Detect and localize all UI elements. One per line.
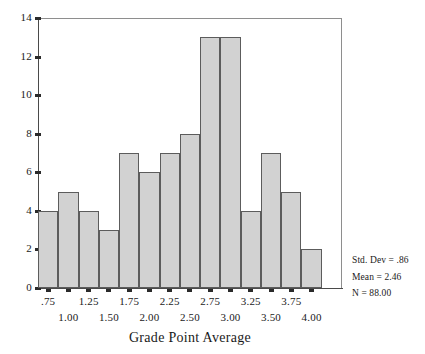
x-axis-tick — [309, 289, 314, 292]
x-axis-tick-label: 2.25 — [150, 296, 190, 307]
x-axis-tick-label: 1.25 — [69, 296, 109, 307]
histogram-bar — [301, 249, 321, 288]
histogram-bar — [241, 211, 261, 288]
x-axis-tick — [289, 289, 294, 292]
histogram-bar — [180, 134, 200, 288]
x-axis-tick-label: 4.00 — [292, 312, 332, 323]
x-axis-tick — [208, 289, 213, 292]
histogram-chart: 02468101214 .751.001.251.501.752.002.252… — [0, 0, 425, 354]
sample-size-text: N = 88.00 — [352, 285, 425, 302]
histogram-bar — [119, 153, 139, 288]
x-axis-tick-label: 3.00 — [211, 312, 251, 323]
x-axis-tick — [167, 289, 172, 292]
x-axis-tick — [269, 289, 274, 292]
histogram-bars — [38, 18, 343, 288]
x-axis-tick-label: 2.00 — [129, 312, 169, 323]
x-axis-tick — [147, 289, 152, 292]
x-axis-tick — [127, 289, 132, 292]
y-axis-tick-label: 0 — [2, 282, 32, 293]
std-dev-text: Std. Dev = .86 — [352, 252, 425, 269]
histogram-bar — [58, 192, 78, 288]
y-axis-tick-label: 8 — [2, 128, 32, 139]
x-axis-tick — [228, 289, 233, 292]
y-axis-tick-label: 6 — [2, 166, 32, 177]
x-axis-tick-label: 3.75 — [271, 296, 311, 307]
x-axis-tick-label: 2.75 — [190, 296, 230, 307]
x-axis-tick-label: 1.50 — [89, 312, 129, 323]
y-axis-tick-label: 10 — [2, 89, 32, 100]
x-axis-tick-label: 3.25 — [231, 296, 271, 307]
mean-text: Mean = 2.46 — [352, 269, 425, 286]
histogram-bar — [281, 192, 301, 288]
x-axis-tick — [187, 289, 192, 292]
histogram-bar — [200, 37, 220, 288]
histogram-bar — [79, 211, 99, 288]
y-axis-tick-label: 2 — [2, 243, 32, 254]
x-axis-title: Grade Point Average — [0, 330, 380, 346]
histogram-bar — [160, 153, 180, 288]
statistics-annotation: Std. Dev = .86 Mean = 2.46 N = 88.00 — [352, 252, 425, 302]
histogram-bar — [261, 153, 281, 288]
x-axis-tick — [46, 289, 51, 292]
x-axis-tick-label: 2.50 — [170, 312, 210, 323]
y-axis-tick-label: 4 — [2, 205, 32, 216]
x-axis-tick — [66, 289, 71, 292]
y-axis-tick-label: 14 — [2, 12, 32, 23]
histogram-bar — [99, 230, 119, 288]
y-axis-tick-label: 12 — [2, 51, 32, 62]
x-axis-tick-label: 1.75 — [109, 296, 149, 307]
x-axis-tick-label: 3.50 — [251, 312, 291, 323]
x-axis-tick — [106, 289, 111, 292]
x-axis-tick — [86, 289, 91, 292]
x-axis-tick-label: .75 — [28, 296, 68, 307]
x-axis-tick-label: 1.00 — [48, 312, 88, 323]
histogram-bar — [220, 37, 240, 288]
histogram-bar — [139, 172, 159, 288]
histogram-bar — [38, 211, 58, 288]
x-axis-tick — [248, 289, 253, 292]
